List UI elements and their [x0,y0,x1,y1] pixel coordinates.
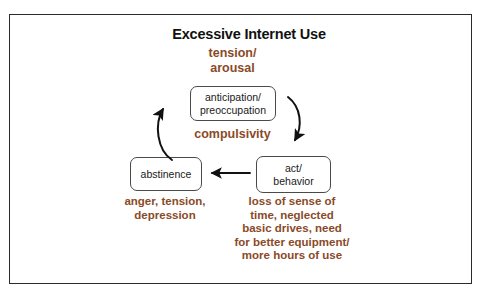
node-anticipation-line1: anticipation/ [200,91,266,104]
node-abstinence[interactable]: abstinence [130,157,202,191]
annotation-consequences: loss of sense of time, neglected basic d… [218,195,366,263]
diagram-figure: Excessive Internet Use tension/ arousal … [0,0,498,300]
node-anticipation-text: anticipation/ preoccupation [200,91,266,116]
node-abstinence-text: abstinence [141,168,192,181]
annotation-tension-arousal-line2: arousal [160,61,305,76]
annotation-consequences-line3: basic drives, need [218,222,366,236]
node-anticipation-preoccupation[interactable]: anticipation/ preoccupation [190,86,276,121]
annotation-anger-depression: anger, tension, depression [95,195,235,222]
annotation-tension-arousal: tension/ arousal [160,46,305,75]
node-act-line2: behavior [273,175,313,188]
annotation-consequences-line4: for better equipment/ [218,236,366,250]
annotation-consequences-line5: more hours of use [218,249,366,263]
figure-title: Excessive Internet Use [0,26,498,42]
annotation-anger-line2: depression [95,209,235,223]
annotation-consequences-line1: loss of sense of [218,195,366,209]
node-anticipation-line2: preoccupation [200,104,266,117]
node-act-text: act/ behavior [273,162,313,187]
annotation-tension-arousal-line1: tension/ [160,46,305,61]
annotation-compulsivity-line1: compulsivity [160,127,305,141]
annotation-consequences-line2: time, neglected [218,209,366,223]
annotation-compulsivity: compulsivity [160,127,305,141]
node-act-behavior[interactable]: act/ behavior [256,156,331,193]
node-abstinence-line1: abstinence [141,168,192,181]
diagram-canvas: Excessive Internet Use tension/ arousal … [0,0,498,300]
annotation-anger-line1: anger, tension, [95,195,235,209]
node-act-line1: act/ [273,162,313,175]
